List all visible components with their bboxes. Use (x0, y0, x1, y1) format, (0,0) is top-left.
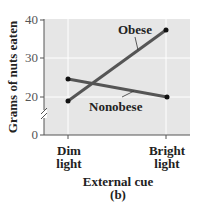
x-ticks (68, 135, 166, 139)
category-bright-line2: light (154, 156, 180, 171)
category-dim-line2: light (56, 156, 82, 171)
label-obese: Obese (118, 22, 152, 37)
label-nonobese: Nonobese (89, 99, 143, 114)
figure-caption: (b) (110, 187, 126, 202)
ytick-30: 30 (25, 50, 38, 65)
ytick-0: 0 (32, 127, 39, 142)
plot-area (44, 19, 190, 135)
ytick-40: 40 (25, 12, 38, 27)
y-axis-title: Grams of nuts eaten (5, 20, 20, 133)
ytick-20: 20 (25, 89, 38, 104)
chart: 40 30 20 0 Grams of nuts eaten Obese Non… (0, 0, 201, 209)
